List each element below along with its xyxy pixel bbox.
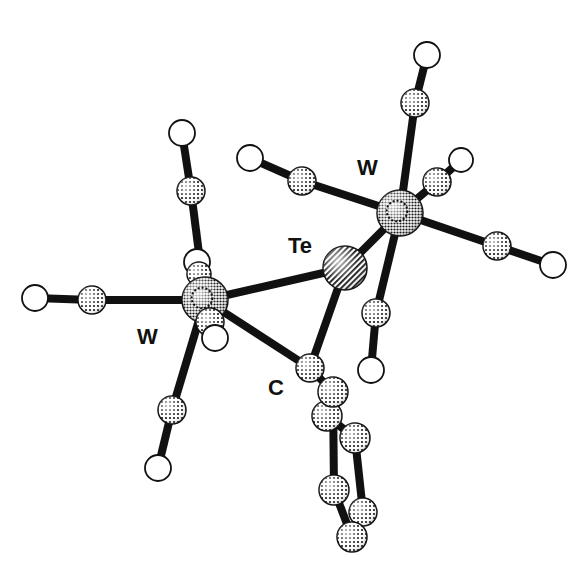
molecule-diagram: W W Te C — [0, 0, 581, 566]
atom-c-ph6 — [337, 522, 367, 552]
atom-o-o6 — [202, 325, 228, 351]
atom-c-c7 — [288, 167, 316, 195]
atom-c-c1 — [296, 354, 324, 382]
atom-c-c10 — [483, 232, 511, 260]
atom-te-te — [323, 246, 367, 290]
atom-o-o7 — [237, 145, 263, 171]
atom-c-c9 — [423, 168, 451, 196]
label-tungsten-left: W — [137, 324, 158, 349]
atom-c-ph1 — [318, 377, 348, 407]
atom-c-c2 — [78, 286, 106, 314]
atom-c-c11 — [362, 299, 390, 327]
atom-o-o8 — [414, 42, 440, 68]
atom-c-ph4 — [319, 475, 349, 505]
label-tungsten-right: W — [357, 155, 378, 180]
atom-c-ph3 — [340, 423, 370, 453]
atom-c-c3 — [177, 177, 205, 205]
atom-o-o4 — [145, 455, 171, 481]
atom-o-o11 — [358, 357, 384, 383]
atom-c-c4 — [158, 396, 186, 424]
label-tellurium: Te — [288, 233, 312, 258]
label-carbene-carbon: C — [268, 375, 284, 400]
atoms-layer — [22, 42, 566, 552]
atom-o-o2 — [22, 285, 48, 311]
atom-c-c8 — [401, 89, 429, 117]
atom-o-o3 — [169, 120, 195, 146]
atom-w-w2 — [377, 190, 423, 236]
atom-o-o10 — [540, 252, 566, 278]
atom-o-o9 — [449, 148, 473, 172]
bonds-layer — [35, 55, 553, 537]
